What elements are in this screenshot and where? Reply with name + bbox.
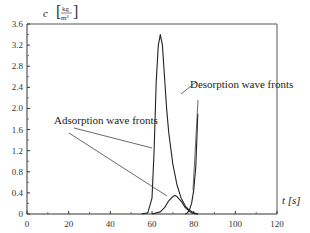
series-line-2 — [185, 114, 198, 214]
y-tick-label: 1.6 — [12, 125, 24, 135]
y-tick-label: 0.8 — [12, 167, 24, 177]
y-tick-label: 3.6 — [12, 19, 24, 29]
desorption-label: Desorption wave fronts — [190, 78, 293, 90]
x-tick-label: 100 — [229, 219, 243, 229]
y-tick-label: 0.4 — [12, 188, 24, 198]
x-tick-label: 120 — [270, 219, 284, 229]
y-tick-label: 2.0 — [12, 103, 24, 113]
adsorption-label: Adsorption wave fronts — [54, 114, 158, 126]
y-tick-label: 2.8 — [12, 61, 24, 71]
x-tick-label: 80 — [189, 219, 199, 229]
y-tick-label: 2.4 — [12, 82, 24, 92]
svg-text:m³: m³ — [61, 14, 69, 22]
y-tick-label: 0 — [19, 209, 24, 219]
annotation-lines — [69, 82, 198, 196]
x-axis-label: t [s] — [282, 194, 301, 206]
x-tick-label: 40 — [106, 219, 116, 229]
x-tick-label: 60 — [148, 219, 158, 229]
chart: 00.40.81.21.62.02.42.83.23.6 02040608010… — [0, 0, 310, 233]
svg-text:c: c — [43, 7, 48, 19]
svg-text:kg: kg — [62, 5, 70, 13]
y-tick-label: 1.2 — [12, 146, 23, 156]
x-tick-label: 20 — [64, 219, 74, 229]
y-axis-label: c [ kg m³ ] — [43, 3, 78, 22]
y-tick-label: 3.2 — [12, 40, 23, 50]
x-tick-label: 0 — [25, 219, 30, 229]
svg-text:]: ] — [73, 3, 78, 20]
